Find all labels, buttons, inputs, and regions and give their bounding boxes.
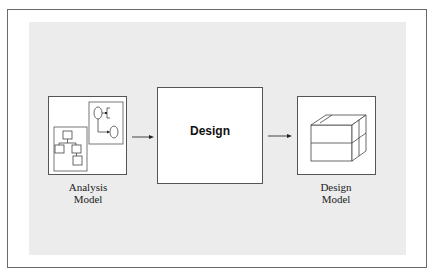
- design-model-caption: Design Model: [291, 181, 381, 205]
- arrow-analysis-to-design: [132, 133, 156, 141]
- arrow-design-to-model: [268, 132, 294, 140]
- design-model-caption-line1: Design: [291, 181, 381, 193]
- design-label: Design: [158, 124, 262, 138]
- analysis-model-caption: Analysis Model: [43, 181, 133, 205]
- design-model-box: [297, 96, 376, 175]
- design-process-box: Design: [157, 87, 263, 184]
- analysis-caption-line1: Analysis: [43, 181, 133, 193]
- analysis-model-box: [48, 96, 127, 175]
- analysis-diagrams-icon: [49, 97, 128, 176]
- analysis-caption-line2: Model: [43, 193, 133, 205]
- design-model-caption-line2: Model: [291, 193, 381, 205]
- cube-icon: [298, 97, 377, 176]
